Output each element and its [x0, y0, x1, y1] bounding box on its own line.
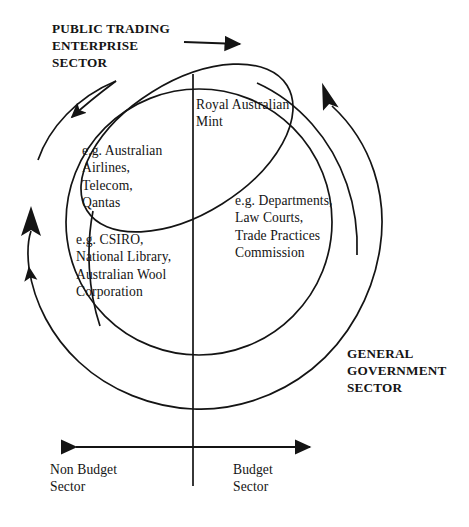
pte-examples-label: e.g. Australian Airlines, Telecom, Qanta…: [82, 142, 162, 212]
diagram-graphics: [0, 0, 469, 527]
budget-sector-axis-label: Budget Sector: [233, 461, 273, 496]
general-government-examples-label: e.g. Departments, Law Courts, Trade Prac…: [235, 192, 333, 262]
left-up-arc: [28, 231, 31, 268]
public-trading-enterprise-sector-label: PUBLIC TRADING ENTERPRISE SECTOR: [52, 20, 170, 71]
diagram-canvas: PUBLIC TRADING ENTERPRISE SECTOR GENERAL…: [0, 0, 469, 527]
non-budget-examples-label: e.g. CSIRO, National Library, Australian…: [76, 231, 171, 301]
general-government-sector-label: GENERAL GOVERNMENT SECTOR: [347, 345, 446, 396]
non-budget-sector-axis-label: Non Budget Sector: [50, 461, 117, 496]
royal-australian-mint-label: Royal Australian Mint: [196, 96, 289, 131]
top-arrow-line: [184, 42, 240, 44]
pte-sweep-arrow: [72, 81, 116, 117]
ggs-arrow-head: [319, 81, 339, 111]
